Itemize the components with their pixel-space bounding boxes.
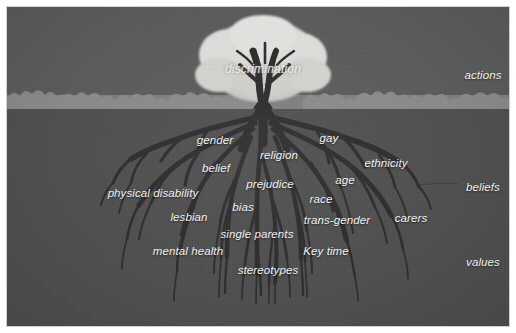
root-label: Key time [303, 245, 349, 257]
root-label: lesbian [170, 211, 207, 223]
root-label: prejudice [246, 178, 294, 190]
root-label: trans-gender [304, 214, 370, 226]
root-label: belief [202, 162, 230, 174]
root-label: ethnicity [364, 157, 407, 169]
image-frame: discrimination gendergayreligionbeliefet… [7, 7, 509, 326]
canopy-label: discrimination [225, 62, 301, 76]
root-label: gay [320, 132, 339, 144]
root-label: age [335, 174, 355, 186]
root-label: mental health [153, 245, 223, 257]
root-label: carers [395, 212, 428, 224]
root-label: bias [232, 201, 254, 213]
root-label: gender [197, 134, 233, 146]
root-label: religion [260, 149, 298, 161]
side-label-actions: actions [464, 69, 501, 81]
side-label-beliefs: beliefs [466, 181, 500, 193]
figure-canvas: discrimination gendergayreligionbeliefet… [0, 0, 516, 333]
root-label: physical disability [108, 187, 199, 199]
root-label: single parents [221, 228, 294, 240]
side-label-values: values [466, 256, 500, 268]
root-label: stereotypes [238, 264, 299, 276]
tree-illustration [7, 7, 509, 326]
root-label: race [310, 193, 333, 205]
